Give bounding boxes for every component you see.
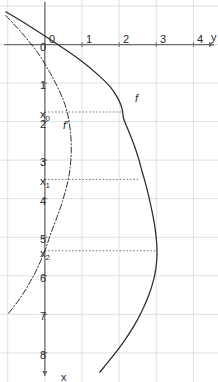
x-tick-label-3: 3 (40, 157, 46, 168)
x-tick-label-8: 8 (40, 350, 46, 361)
y-tick-label-4: 4 (197, 34, 203, 45)
x-tick-label-1: 1 (40, 80, 46, 91)
y-tick-label-1: 1 (86, 34, 92, 45)
x-tick-label-6: 6 (40, 273, 46, 284)
function-plot: 012345678x0x1x201234xyff' (0, 0, 218, 382)
gridlines (0, 0, 218, 382)
curve-label-f-prime: f' (63, 120, 68, 131)
x-tick-label-0: 0 (40, 42, 46, 53)
curve-label-f: f (135, 93, 138, 104)
x-tick-label-7: 7 (40, 311, 46, 322)
x-axis-name: x (61, 372, 67, 382)
plot-canvas (0, 0, 218, 382)
y-tick-label-2: 2 (123, 34, 129, 45)
y-axis-name: y (211, 32, 217, 43)
x-special-label-x2: x2 (40, 248, 50, 262)
curve-f (6, 12, 157, 372)
y-tick-label-3: 3 (160, 34, 166, 45)
x-tick-label-5: 5 (40, 234, 46, 245)
dashed-helper-lines (45, 112, 157, 251)
axis-lines (4, 2, 214, 376)
x-tick-label-4: 4 (40, 196, 46, 207)
function-curves (6, 12, 157, 372)
x-special-label-x1: x1 (40, 176, 50, 190)
y-tick-label-0: 0 (49, 34, 55, 45)
x-special-label-x0: x0 (40, 109, 50, 123)
panel-label: d) (0, 0, 2, 3)
figure-rotator: 012345678x0x1x201234xyff' d) (0, 0, 218, 382)
curve-f-prime (6, 16, 71, 315)
tick-marks (42, 42, 193, 353)
